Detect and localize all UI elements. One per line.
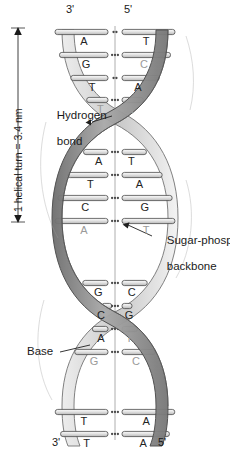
base-letter: C: [128, 355, 144, 367]
base-bar-right: [122, 303, 132, 308]
base-letter: G: [90, 286, 106, 298]
hydrogen-bond-dot: [117, 54, 119, 56]
hydrogen-bond-dot: [117, 351, 119, 353]
hydrogen-bond-dot: [111, 351, 113, 353]
base-bar-left: [75, 349, 108, 354]
base-letter: T: [138, 35, 154, 47]
base-bar-left: [92, 326, 108, 331]
base-letter: C: [77, 201, 93, 213]
hydrogen-bond-dot: [111, 411, 113, 413]
base-letter: G: [78, 58, 94, 70]
label-top-left-prime: 3': [66, 3, 74, 15]
hydrogen-bond-dot: [117, 174, 119, 176]
base-bar-left: [71, 75, 108, 80]
base-bar-left: [58, 195, 108, 200]
base-letter: T: [76, 415, 92, 427]
base-bar-left: [55, 218, 108, 223]
base-letter: T: [84, 81, 100, 93]
hydrogen-bond-dot: [117, 197, 119, 199]
base-letter: C: [136, 58, 152, 70]
hydrogen-bond-dot: [111, 433, 113, 435]
hydrogen-bond-dot: [111, 99, 113, 101]
label-top-right-prime: 5': [124, 3, 132, 15]
base-letter: G: [86, 355, 102, 367]
hydrogen-bond-dot: [115, 31, 117, 33]
hydrogen-bond-dot: [117, 282, 119, 284]
base-letter: C: [124, 286, 140, 298]
hydrogen-bond-dot: [117, 99, 119, 101]
hydrogen-bond-dot: [115, 77, 117, 79]
base-bar-right: [122, 149, 146, 154]
hydrogen-bond-dot: [112, 31, 114, 33]
base-bar-left: [61, 431, 108, 436]
hydrogen-bond-dot: [117, 151, 119, 153]
hydrogen-bond-dot: [114, 151, 116, 153]
dna-diagram: 3' 5' 3' 5' 1 helical turn = 3.4 nm Hydr…: [0, 0, 230, 455]
hydrogen-bond-dot: [117, 433, 119, 435]
base-letter: G: [121, 309, 137, 321]
hydrogen-bond-dot: [114, 351, 116, 353]
hydrogen-bond-dot: [114, 54, 116, 56]
hydrogen-bond-dot: [111, 282, 113, 284]
base-bar-left: [59, 52, 108, 57]
base-letter: T: [82, 178, 98, 190]
base-letter: A: [93, 332, 109, 344]
base-bar-left: [68, 172, 108, 177]
hydrogen-bond-dot: [112, 77, 114, 79]
base-bar-left: [55, 409, 108, 414]
base-bar-left: [83, 280, 108, 285]
hydrogen-bond-dot: [117, 305, 119, 307]
base-letter: A: [135, 437, 151, 449]
base-letter: G: [137, 201, 153, 213]
hydrogen-bond-dot: [114, 433, 116, 435]
hydrogen-bond-dot: [111, 151, 113, 153]
base-letter: A: [76, 35, 92, 47]
base-label: Base: [27, 345, 53, 358]
hydrogen-bond-dot: [111, 174, 113, 176]
hydrogen-bond-dot: [111, 197, 113, 199]
base-letter: A: [91, 155, 107, 167]
base-letter: A: [132, 178, 148, 190]
hydrogen-bond-dot: [114, 282, 116, 284]
hydrogen-bond-dot: [111, 305, 113, 307]
hydrogen-bond-dot: [114, 174, 116, 176]
hydrogen-bond-dot: [117, 220, 119, 222]
label-bottom-right-prime: 5': [158, 436, 166, 448]
base-letter: A: [76, 224, 92, 236]
helical-turn-label: 1 helical turn = 3.4 nm: [12, 108, 24, 212]
hydrogen-bond-dot: [114, 99, 116, 101]
base-letter: A: [138, 415, 154, 427]
hydrogen-bond-dot: [111, 54, 113, 56]
base-bar-left: [55, 29, 108, 34]
base-letter: T: [79, 437, 95, 449]
hydrogen-bond-dot: [114, 197, 116, 199]
sugar-phosphate-label-line1: Sugar-phosphate: [167, 234, 230, 246]
base-bar-right: [122, 280, 147, 285]
base-letter: A: [122, 103, 138, 115]
hydrogen-bond-dot: [114, 411, 116, 413]
base-letter: A: [130, 81, 146, 93]
sugar-phosphate-label-line2: backbone: [167, 260, 217, 272]
hydrogen-bond-dot: [117, 411, 119, 413]
base-letter: T: [138, 224, 154, 236]
base-letter: C: [93, 309, 109, 321]
label-bottom-left-prime: 3': [52, 436, 60, 448]
hydrogen-bond-dot: [111, 220, 113, 222]
base-letter: T: [121, 332, 137, 344]
hydrogen-bond-dot: [114, 220, 116, 222]
base-letter: T: [123, 155, 139, 167]
base-bar-right: [122, 195, 172, 200]
hydrogen-bond-label-line2: bond: [57, 135, 83, 147]
sugar-phosphate-label: Sugar-phosphate backbone: [154, 221, 230, 285]
base-bar-right: [122, 172, 162, 177]
base-letter: T: [92, 103, 108, 115]
hydrogen-bond-dot: [111, 328, 113, 330]
hydrogen-bond-dot: [114, 305, 116, 307]
